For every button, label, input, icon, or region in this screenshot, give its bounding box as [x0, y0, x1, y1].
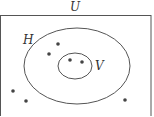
element-point [56, 42, 60, 46]
set-v-label: V [95, 59, 105, 73]
element-points [11, 42, 127, 103]
element-point [11, 89, 15, 93]
element-point [47, 52, 51, 56]
set-h-label: H [22, 33, 34, 47]
element-point [68, 58, 72, 62]
universe-label: U [70, 0, 81, 14]
universe-rectangle [1, 16, 152, 117]
set-v-ellipse [58, 53, 92, 79]
venn-diagram: U H V [0, 0, 154, 116]
element-point [80, 60, 84, 64]
set-h-ellipse [24, 28, 130, 104]
element-point [123, 98, 127, 102]
element-point [24, 99, 28, 103]
